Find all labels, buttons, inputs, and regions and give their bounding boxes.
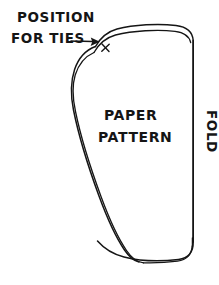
paper-pattern-line-2: PATTERN [98, 129, 172, 145]
paper-pattern-line-1: PAPER [104, 107, 157, 123]
pattern-diagram-canvas: POSITION FOR TIES PAPER PATTERN FOLD [0, 0, 219, 285]
pattern-drawing: POSITION FOR TIES PAPER PATTERN FOLD [0, 0, 219, 285]
position-for-ties-label: POSITION FOR TIES [11, 9, 95, 46]
position-for-ties-line-1: POSITION [17, 9, 95, 25]
pattern-left-outer-curve [71, 47, 139, 262]
fold-label-text: FOLD [204, 110, 219, 153]
pattern-left-inner-seam [73, 53, 143, 263]
position-for-ties-line-2: FOR TIES [11, 30, 85, 46]
paper-pattern-label: PAPER PATTERN [98, 107, 172, 145]
tie-position-x-marker [102, 44, 109, 52]
fold-label: FOLD [204, 110, 219, 153]
pattern-top-inner-seam [94, 30, 191, 52]
